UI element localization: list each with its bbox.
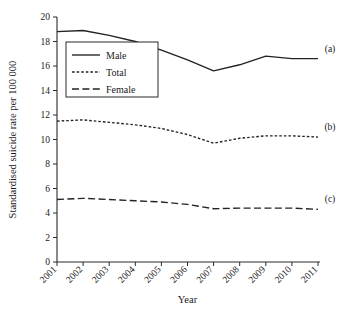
y-tick-label: 4	[45, 208, 50, 218]
legend: MaleTotalFemale	[66, 42, 158, 97]
y-tick-label: 8	[45, 159, 50, 169]
x-tick-label: 2011	[299, 264, 319, 284]
caption-strip	[0, 304, 345, 318]
y-tick-label: 20	[41, 12, 51, 22]
line-chart: 0246810121416182020012002200320042005200…	[0, 0, 345, 318]
series-annotations-group: (a)(b)(c)	[324, 44, 335, 206]
legend-label-total: Total	[106, 67, 127, 78]
x-tick-label: 2003	[90, 264, 111, 285]
x-tick-label: 2010	[273, 264, 294, 285]
series-annotation-b: (b)	[324, 122, 335, 133]
y-tick-label: 16	[41, 61, 51, 71]
series-annotation-a: (a)	[325, 44, 336, 55]
y-tick-label: 2	[45, 233, 50, 243]
x-tick-label: 2008	[221, 264, 242, 285]
series-line-female	[57, 198, 318, 209]
x-tick-label: 2001	[38, 264, 59, 285]
y-tick-label: 14	[41, 86, 51, 96]
x-tick-label: 2006	[168, 264, 189, 285]
x-tick-label: 2005	[142, 264, 163, 285]
legend-label-female: Female	[106, 84, 136, 95]
legend-label-male: Male	[106, 50, 127, 61]
y-axis-title: Standardised suicide rate per 100 000	[7, 61, 18, 219]
x-tick-label: 2009	[247, 264, 268, 285]
y-tick-label: 12	[41, 110, 51, 120]
x-tick-label: 2004	[116, 264, 137, 285]
y-tick-label: 18	[41, 37, 51, 47]
y-tick-label: 10	[41, 135, 51, 145]
x-tick-label: 2007	[195, 264, 216, 285]
series-annotation-c: (c)	[325, 194, 336, 205]
figure-container: 0246810121416182020012002200320042005200…	[0, 0, 345, 318]
y-tick-label: 6	[45, 184, 50, 194]
x-tick-label: 2002	[64, 264, 85, 285]
series-line-total	[57, 120, 318, 143]
